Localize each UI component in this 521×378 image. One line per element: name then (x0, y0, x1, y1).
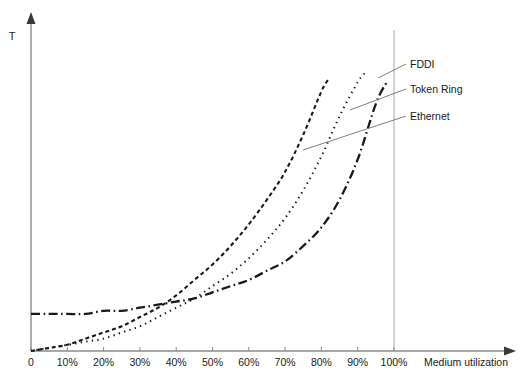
series-label-ethernet: Ethernet (410, 110, 450, 122)
x-axis-tick-label: 30% (129, 356, 150, 368)
y-axis-title: T (9, 30, 16, 42)
throughput-utilization-chart: T 010%20%30%40%50%60%70%80%90%100% Mediu… (0, 0, 521, 378)
chart-background (0, 0, 521, 378)
x-axis-tick-label: 90% (347, 356, 368, 368)
chart-canvas: T 010%20%30%40%50%60%70%80%90%100% Mediu… (0, 0, 521, 378)
series-label-token-ring: Token Ring (410, 83, 463, 95)
x-axis-tick-label: 10% (57, 356, 78, 368)
x-axis-tick-label: 80% (311, 356, 332, 368)
x-axis-tick-label: 0 (28, 356, 34, 368)
x-axis-title: Medium utilization (424, 356, 508, 368)
x-axis-tick-label: 50% (202, 356, 223, 368)
x-axis-tick-label: 60% (238, 356, 259, 368)
x-axis-tick-label: 70% (275, 356, 296, 368)
series-label-fddi: FDDI (410, 58, 435, 70)
x-axis-tick-label: 40% (166, 356, 187, 368)
x-axis-tick-label: 20% (93, 356, 114, 368)
x-axis-tick-label: 100% (381, 356, 408, 368)
